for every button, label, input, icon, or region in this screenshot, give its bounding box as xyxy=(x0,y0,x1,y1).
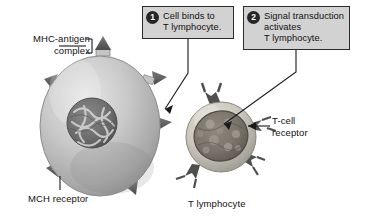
label-mhc-antigen-complex: MHC-antigen complex xyxy=(6,33,90,56)
diagram-figure: MHC-antigen complex MCH receptor T-cell … xyxy=(0,0,370,222)
t-lymphocyte-cell xyxy=(176,83,276,188)
presenting-cell-nucleus xyxy=(67,98,117,148)
callout-step-1-text: Cell binds to T lymphocyte. xyxy=(163,11,221,33)
callout-step-1: 1 Cell binds to T lymphocyte. xyxy=(142,6,234,39)
leader-callout-1 xyxy=(165,39,188,109)
label-mch-receptor: MCH receptor xyxy=(28,193,124,205)
callout-step-2-number: 2 xyxy=(247,11,260,24)
antigen-presenting-cell xyxy=(40,36,172,196)
callout-step-2-text: Signal transduction activates T lymphocy… xyxy=(264,11,344,44)
label-t-lymphocyte: T lymphocyte xyxy=(188,198,278,210)
label-tcell-receptor: T-cell receptor xyxy=(272,115,362,138)
callout-step-1-number: 1 xyxy=(146,11,159,24)
callout-step-2: 2 Signal transduction activates T lympho… xyxy=(243,6,350,50)
